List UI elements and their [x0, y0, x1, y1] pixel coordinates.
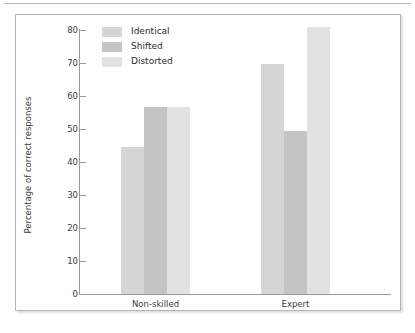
- bar: [167, 107, 190, 294]
- y-axis-tick-label: 10: [18, 257, 78, 266]
- y-axis-tick: [80, 96, 86, 97]
- y-axis-tick: [80, 195, 86, 196]
- bar: [121, 147, 144, 294]
- x-axis-tick-label: Expert: [236, 299, 356, 309]
- legend-label-shifted: Shifted: [131, 42, 163, 51]
- y-axis-tick: [80, 162, 86, 163]
- legend-item[interactable]: Shifted: [102, 39, 173, 54]
- legend-item[interactable]: Identical: [102, 24, 173, 39]
- bar: [144, 107, 167, 294]
- legend-swatch-identical: [102, 27, 122, 37]
- plot-area: 01020304050607080 Percentage of correct …: [0, 0, 415, 333]
- x-axis-tick-label: Non-skilled: [96, 299, 216, 309]
- y-axis-tick: [80, 261, 86, 262]
- bar: [284, 131, 307, 294]
- y-axis-tick: [80, 228, 86, 229]
- legend-swatch-shifted: [102, 42, 122, 52]
- y-axis-tick: [80, 30, 86, 31]
- y-axis-tick-label: 70: [18, 59, 78, 68]
- y-axis-tick: [80, 294, 86, 295]
- y-axis-tick-label: 80: [18, 26, 78, 35]
- bar: [261, 64, 284, 294]
- legend-label-identical: Identical: [131, 27, 170, 36]
- y-axis-tick: [80, 129, 86, 130]
- legend-item[interactable]: Distorted: [102, 54, 173, 69]
- figure: 01020304050607080 Percentage of correct …: [0, 0, 415, 333]
- legend: Identical Shifted Distorted: [102, 24, 173, 69]
- bar: [307, 27, 330, 294]
- x-axis-line: [79, 294, 391, 295]
- legend-swatch-distorted: [102, 57, 122, 67]
- legend-label-distorted: Distorted: [131, 57, 173, 66]
- y-axis-tick-label: 0: [18, 290, 78, 299]
- y-axis-tick: [80, 63, 86, 64]
- y-axis-title: Percentage of correct responses: [23, 80, 33, 250]
